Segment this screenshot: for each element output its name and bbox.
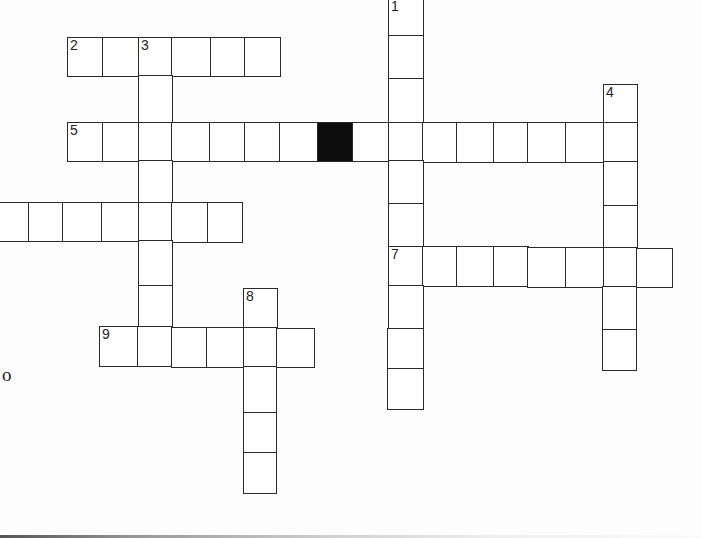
grid-cell[interactable] bbox=[243, 452, 277, 494]
clue-number: 3 bbox=[141, 38, 149, 53]
grid-cell[interactable] bbox=[243, 412, 277, 454]
grid-cell[interactable] bbox=[0, 202, 30, 242]
grid-cell[interactable] bbox=[493, 246, 529, 287]
grid-cell[interactable] bbox=[387, 368, 424, 410]
grid-cell[interactable] bbox=[565, 122, 605, 163]
grid-cell[interactable] bbox=[209, 122, 246, 162]
black-cell bbox=[317, 122, 354, 162]
clue-cell-1[interactable]: 1 bbox=[388, 0, 424, 37]
clue-number: 9 bbox=[102, 327, 110, 342]
grid-cell[interactable] bbox=[101, 202, 140, 242]
grid-cell[interactable] bbox=[636, 248, 673, 288]
clue-cell-2[interactable]: 2 bbox=[67, 37, 104, 77]
grid-cell[interactable] bbox=[102, 37, 140, 77]
grid-cell[interactable] bbox=[279, 122, 319, 162]
crossword-grid: 12345789 bbox=[0, 0, 702, 538]
grid-cell[interactable] bbox=[138, 160, 173, 204]
grid-cell[interactable] bbox=[456, 122, 495, 163]
grid-cell[interactable] bbox=[171, 122, 211, 162]
grid-cell[interactable] bbox=[388, 203, 424, 248]
clue-number: 5 bbox=[70, 123, 78, 138]
grid-cell[interactable] bbox=[138, 75, 173, 123]
clue-number: 7 bbox=[391, 247, 399, 262]
grid-cell[interactable] bbox=[276, 328, 315, 368]
grid-cell[interactable] bbox=[171, 37, 212, 77]
grid-cell[interactable] bbox=[602, 286, 637, 331]
grid-cell[interactable] bbox=[28, 202, 64, 242]
grid-cell[interactable] bbox=[62, 202, 103, 242]
grid-cell[interactable] bbox=[388, 285, 424, 330]
grid-cell[interactable] bbox=[387, 328, 424, 370]
grid-cell[interactable] bbox=[493, 122, 529, 163]
clue-number: 4 bbox=[606, 85, 614, 100]
grid-cell[interactable] bbox=[206, 327, 245, 368]
grid-cell[interactable] bbox=[102, 122, 140, 162]
grid-cell[interactable] bbox=[388, 160, 424, 205]
grid-cell[interactable] bbox=[603, 122, 638, 163]
clue-cell-8[interactable]: 8 bbox=[243, 288, 278, 328]
grid-cell[interactable] bbox=[527, 247, 567, 288]
grid-cell[interactable] bbox=[171, 327, 208, 368]
grid-cell[interactable] bbox=[565, 247, 605, 288]
grid-cell[interactable] bbox=[244, 122, 281, 162]
grid-cell[interactable] bbox=[171, 202, 209, 243]
grid-cell[interactable] bbox=[456, 246, 495, 287]
grid-cell[interactable] bbox=[603, 247, 638, 288]
clue-cell-3[interactable]: 3 bbox=[138, 37, 173, 77]
grid-cell[interactable] bbox=[603, 205, 638, 249]
clue-number: 1 bbox=[391, 0, 399, 14]
grid-cell[interactable] bbox=[137, 326, 173, 367]
clue-cell-9[interactable]: 9 bbox=[99, 326, 139, 367]
grid-cell[interactable] bbox=[422, 122, 458, 163]
grid-cell[interactable] bbox=[603, 161, 638, 207]
grid-cell[interactable] bbox=[388, 78, 424, 124]
grid-cell[interactable] bbox=[422, 246, 458, 287]
grid-cell[interactable] bbox=[243, 327, 278, 368]
grid-cell[interactable] bbox=[352, 122, 390, 162]
grid-cell[interactable] bbox=[138, 202, 173, 242]
grid-cell[interactable] bbox=[244, 37, 281, 77]
grid-cell[interactable] bbox=[138, 285, 173, 327]
clue-cell-7[interactable]: 7 bbox=[388, 246, 424, 287]
grid-cell[interactable] bbox=[207, 202, 243, 243]
grid-cell[interactable] bbox=[388, 35, 424, 80]
clue-cell-4[interactable]: 4 bbox=[603, 84, 638, 124]
clue-cell-5[interactable]: 5 bbox=[67, 122, 104, 162]
clue-number: 2 bbox=[70, 38, 78, 53]
grid-cell[interactable] bbox=[210, 37, 246, 77]
grid-cell[interactable] bbox=[243, 366, 277, 414]
grid-cell[interactable] bbox=[388, 122, 424, 162]
grid-cell[interactable] bbox=[602, 329, 637, 371]
grid-cell[interactable] bbox=[527, 122, 567, 163]
stray-letter: o bbox=[2, 364, 12, 386]
clue-number: 8 bbox=[246, 289, 254, 304]
grid-cell[interactable] bbox=[138, 122, 173, 162]
grid-cell[interactable] bbox=[138, 240, 173, 287]
